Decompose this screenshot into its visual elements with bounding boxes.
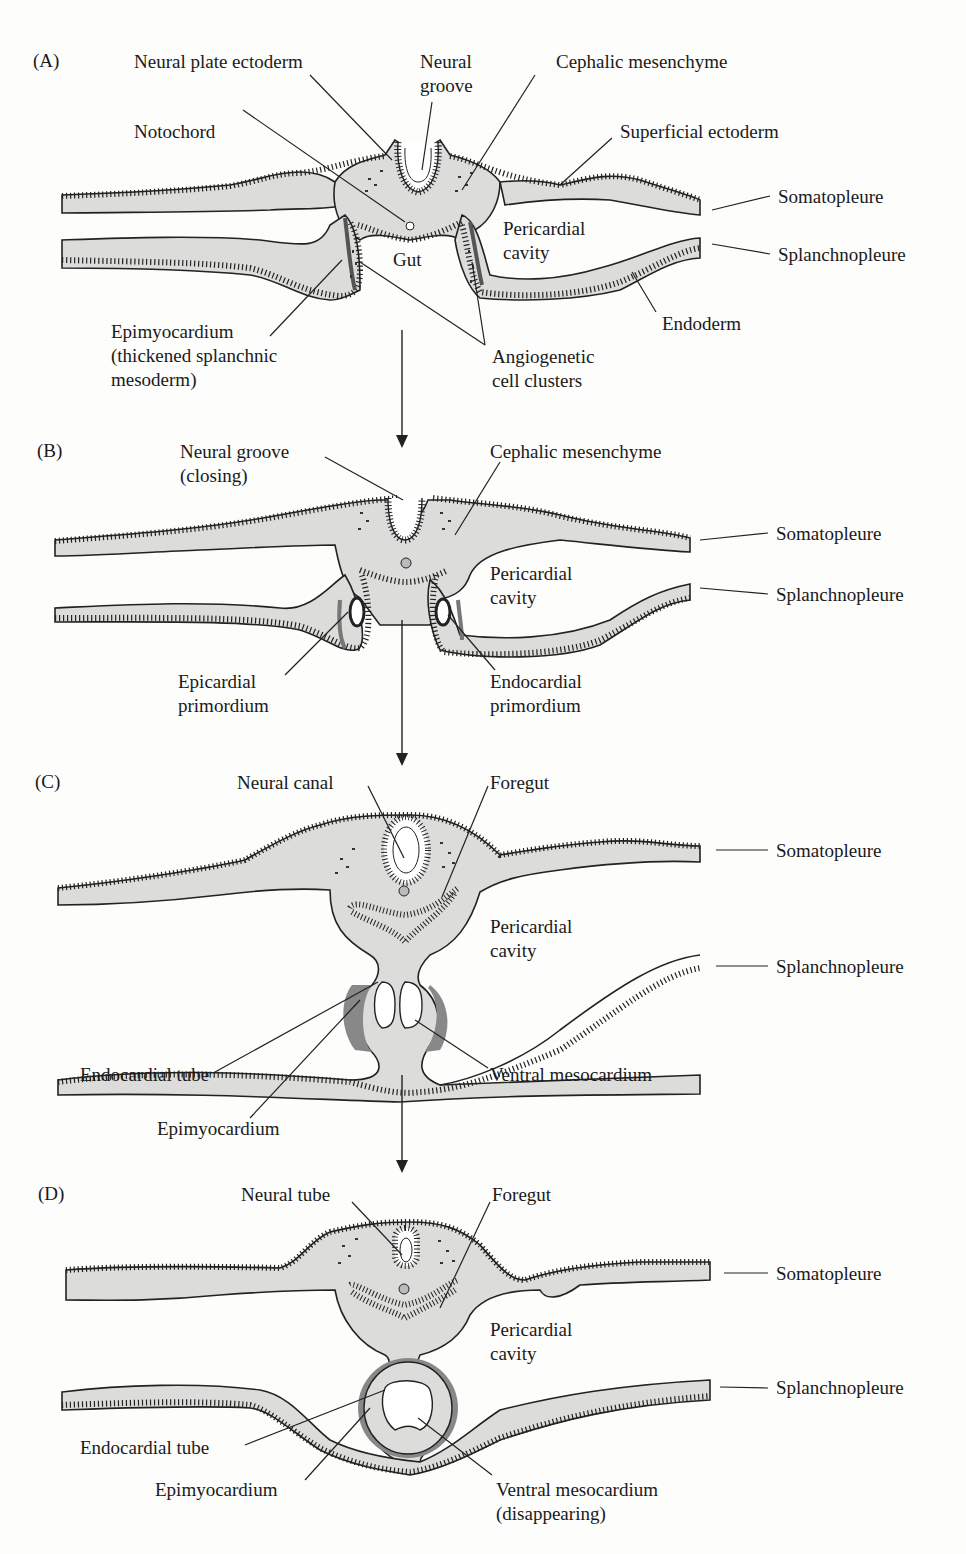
label-endocardial-tube-c: Endocardial tube [80,1063,209,1086]
label-somatopleure: Somatopleure [778,185,884,208]
label-pericardial-c-line2: cavity [490,939,536,962]
label-epimyocardium-c: Epimyocardium [157,1117,279,1140]
label-endocardial-primordium-line1: Endocardial [490,670,582,693]
label-endocardial-tube-d: Endocardial tube [80,1436,209,1459]
label-angiogenetic-line2: cell clusters [492,369,582,392]
label-neural-groove-closing-line2: (closing) [180,464,248,487]
label-somatopleure-b: Somatopleure [776,522,882,545]
label-pericardial-line1: Pericardial [503,217,585,240]
label-splanchnopleure-c: Splanchnopleure [776,955,904,978]
label-neural-groove-closing-line1: Neural groove [180,440,289,463]
label-ventral-mesocardium-d-line1: Ventral mesocardium [496,1478,658,1501]
label-pericardial-line2: cavity [503,241,549,264]
figure-artwork [0,0,966,1554]
panel-c-drawing [58,815,700,1102]
label-somatopleure-d: Somatopleure [776,1262,882,1285]
label-neural-plate-ectoderm: Neural plate ectoderm [134,50,303,73]
label-angiogenetic-line1: Angiogenetic [492,345,594,368]
label-endocardial-primordium-line2: primordium [490,694,581,717]
splanchnopleure-a-left [62,215,360,300]
panel-letter-c: (C) [35,771,60,793]
arrow-down-icon [396,435,408,448]
label-gut: Gut [393,248,422,271]
label-splanchnopleure-d: Splanchnopleure [776,1376,904,1399]
label-endoderm: Endoderm [662,312,741,335]
label-pericardial-b-line2: cavity [490,586,536,609]
label-epicardial-line1: Epicardial [178,670,256,693]
label-splanchnopleure: Splanchnopleure [778,243,906,266]
label-somatopleure-c: Somatopleure [776,839,882,862]
label-foregut-d: Foregut [492,1183,551,1206]
label-pericardial-b-line1: Pericardial [490,562,572,585]
label-neural-tube: Neural tube [241,1183,330,1206]
label-pericardial-d-line1: Pericardial [490,1318,572,1341]
label-foregut-c: Foregut [490,771,549,794]
arrow-down-icon [396,1160,408,1173]
panel-letter-b: (B) [37,440,62,462]
arrow-down-icon [396,753,408,766]
label-epimyocardium-line1: Epimyocardium [111,320,233,343]
panel-letter-a: (A) [33,50,59,72]
panel-letter-d: (D) [38,1183,64,1205]
label-epimyocardium-d: Epimyocardium [155,1478,277,1501]
label-cephalic-mesenchyme-b: Cephalic mesenchyme [490,440,661,463]
label-splanchnopleure-b: Splanchnopleure [776,583,904,606]
label-cephalic-mesenchyme: Cephalic mesenchyme [556,50,727,73]
label-neural-groove-line2: groove [420,74,473,97]
label-ventral-mesocardium-c: Ventral mesocardium [490,1063,652,1086]
label-pericardial-d-line2: cavity [490,1342,536,1365]
label-pericardial-c-line1: Pericardial [490,915,572,938]
label-neural-groove-line1: Neural [420,50,472,73]
label-notochord: Notochord [134,120,215,143]
label-epicardial-line2: primordium [178,694,269,717]
panel-b-drawing [55,498,690,657]
label-superficial-ectoderm: Superficial ectoderm [620,120,779,143]
label-ventral-mesocardium-d-line2: (disappearing) [496,1502,606,1525]
label-neural-canal: Neural canal [237,771,334,794]
label-epimyocardium-line2: (thickened splanchnic [111,344,277,367]
label-epimyocardium-line3: mesoderm) [111,368,196,391]
somatopleure-a-left [62,172,345,213]
